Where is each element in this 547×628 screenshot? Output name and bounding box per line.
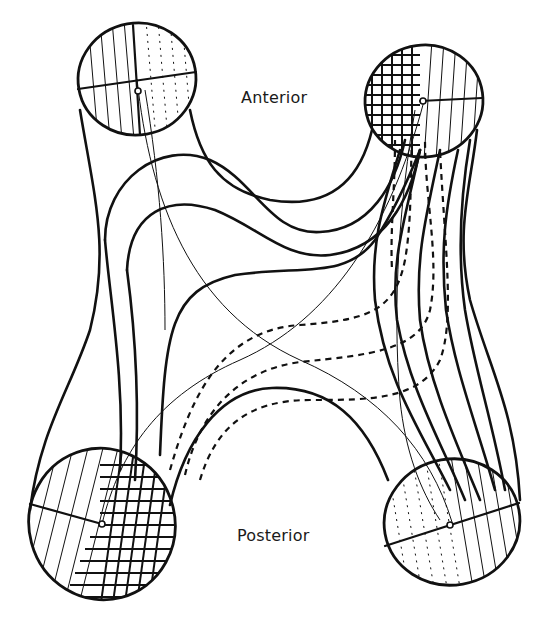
diagram-canvas: Anterior Posterior — [0, 0, 547, 628]
cross-section-top-left — [69, 14, 205, 145]
anterior-label: Anterior — [241, 88, 307, 107]
posterior-label: Posterior — [237, 526, 310, 545]
